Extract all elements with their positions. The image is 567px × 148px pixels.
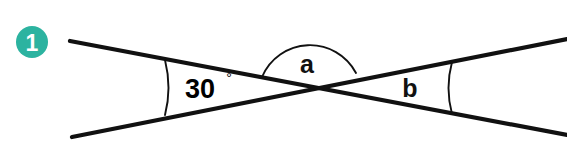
geometry-figure: 1 30 ° a b xyxy=(0,0,567,148)
angle-top-group: a xyxy=(262,45,356,78)
angle-left-arc xyxy=(165,60,169,115)
badge-number-label: 1 xyxy=(26,30,39,56)
degree-symbol-icon: ° xyxy=(226,70,232,86)
question-number-badge: 1 xyxy=(16,26,48,58)
angle-top-value-label: a xyxy=(300,50,315,78)
angle-right-value-label: b xyxy=(402,74,417,102)
angle-left-value-label: 30 xyxy=(185,74,215,104)
figure-canvas: 1 30 ° a b xyxy=(0,0,567,148)
angle-right-arc xyxy=(449,62,453,114)
